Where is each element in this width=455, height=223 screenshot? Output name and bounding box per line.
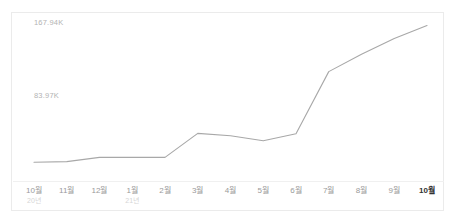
x-axis-tick-month: 10월 xyxy=(405,186,449,196)
x-axis-tick-year: 21년 xyxy=(110,196,154,206)
y-axis-label-mid: 83.97K xyxy=(34,91,59,100)
x-axis-labels: 10월20년11월12월1월21년2월3월4월5월6월7월8월9월10월 xyxy=(12,182,445,211)
y-axis-label-top: 167.94K xyxy=(34,18,63,27)
x-axis-tick[interactable]: 10월 xyxy=(405,186,449,196)
series-line-path xyxy=(34,26,427,163)
chart-plot-area: 167.94K 83.97K xyxy=(12,13,445,181)
chart-card: 167.94K 83.97K 10월20년11월12월1월21년2월3월4월5월… xyxy=(11,12,444,211)
x-axis-tick-year: 20년 xyxy=(12,196,56,206)
line-chart-svg xyxy=(12,13,445,181)
